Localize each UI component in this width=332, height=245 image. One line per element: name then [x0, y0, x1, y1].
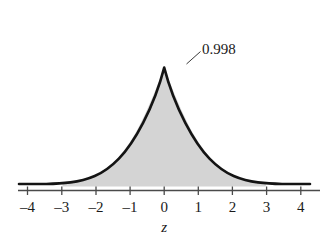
shaded-area-value-label: 0.998 [202, 42, 236, 57]
x-axis-label: z [144, 220, 184, 235]
shaded-area-under-curve [63, 68, 266, 187]
axis-tick-label: 4 [281, 200, 321, 215]
normal-distribution-figure: –4 –3 –2 –1 0 1 2 3 4 z 0.998 [0, 0, 332, 245]
annotation-leader-line [187, 52, 201, 65]
